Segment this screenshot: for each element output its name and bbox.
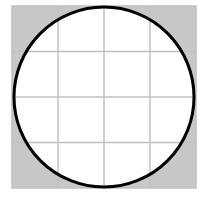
inscribed-circle-diagram <box>0 0 204 205</box>
